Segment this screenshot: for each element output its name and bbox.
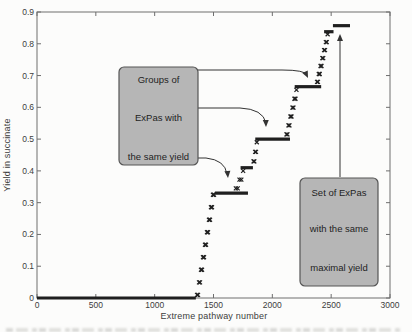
maximal-callout-text-line: with the same [309, 223, 369, 234]
x-tick-label: 2500 [322, 300, 341, 310]
groups-callout-text-line: Groups of [138, 74, 180, 85]
maximal-callout-text-line: maximal yield [310, 262, 368, 273]
figure: 05001000150020002500300000.10.20.30.40.5… [0, 0, 412, 332]
y-tick-label: 0.8 [22, 39, 34, 49]
annotation-arrow [197, 70, 307, 75]
annotation-arrow [197, 108, 266, 123]
x-tick-label: 1500 [204, 300, 223, 310]
y-tick-label: 0.4 [22, 166, 34, 176]
annotation-arrow [197, 158, 227, 174]
maximal-callout-text-line: Set of ExPas [312, 187, 367, 198]
groups-callout-text-line: ExPas with [135, 112, 182, 123]
y-tick-label: 0.2 [22, 229, 34, 239]
y-tick-label: 0 [29, 293, 34, 303]
y-tick-label: 0.5 [22, 134, 34, 144]
y-tick-label: 0.3 [22, 198, 34, 208]
y-axis-label: Yield in succinate [2, 80, 12, 230]
series-marker [294, 88, 298, 92]
series-marker [241, 169, 245, 173]
y-tick-label: 0.7 [22, 71, 34, 81]
cropped-caption-remnant [6, 328, 402, 332]
x-tick-label: 500 [89, 300, 103, 310]
plot-canvas: 05001000150020002500300000.10.20.30.40.5… [0, 0, 412, 332]
arrowhead-icon [337, 34, 343, 41]
x-tick-label: 0 [35, 300, 40, 310]
y-tick-label: 0.6 [22, 102, 34, 112]
groups-callout-text-line: the same yield [128, 151, 189, 162]
series-marker [255, 140, 259, 144]
x-tick-label: 3000 [381, 300, 400, 310]
x-tick-label: 1000 [145, 300, 164, 310]
arrowhead-icon [302, 70, 310, 79]
arrowhead-icon [263, 120, 269, 127]
y-tick-label: 0.9 [22, 7, 34, 17]
x-axis-label: Extreme pathway number [37, 311, 391, 321]
x-tick-label: 2000 [263, 300, 282, 310]
arrowhead-icon [224, 171, 231, 178]
y-tick-label: 0.1 [22, 261, 34, 271]
